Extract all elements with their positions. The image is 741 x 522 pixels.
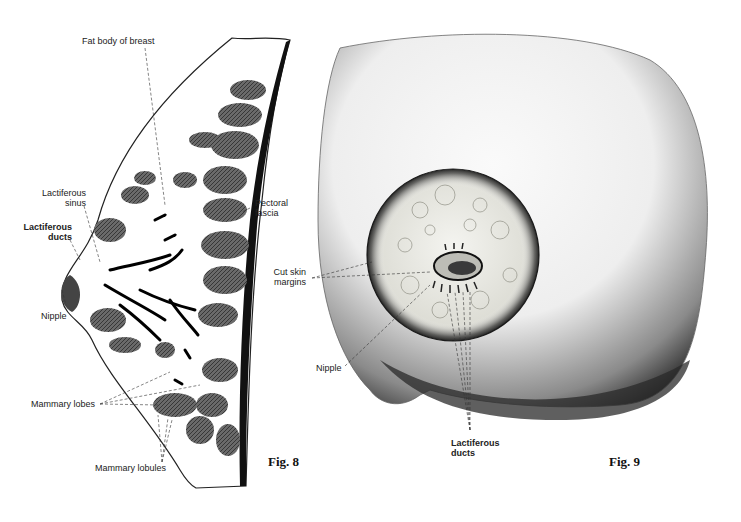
- figure9-breast: [318, 34, 707, 420]
- label-lactiferous-ducts-line2: ducts: [18, 232, 72, 243]
- label-pectoral-fascia-line2: fascia: [255, 208, 279, 219]
- figure8-section: [61, 38, 290, 488]
- label-lactiferous-sinus-line2: sinus: [42, 198, 86, 209]
- label-mammary-lobes: Mammary lobes: [31, 399, 95, 410]
- label-nipple-fig9: Nipple: [316, 363, 342, 374]
- label-cut-skin-margins-line2: margins: [262, 277, 306, 288]
- label-lactiferous-ducts-fig9-line2: ducts: [451, 448, 475, 459]
- label-nipple-fig8: Nipple: [41, 311, 67, 322]
- figure8-caption: Fig. 8: [268, 454, 299, 470]
- label-fat-body-of-breast: Fat body of breast: [82, 36, 155, 47]
- anatomical-illustration: [0, 0, 741, 522]
- figure9-caption: Fig. 9: [609, 454, 640, 470]
- label-mammary-lobules: Mammary lobules: [95, 463, 166, 474]
